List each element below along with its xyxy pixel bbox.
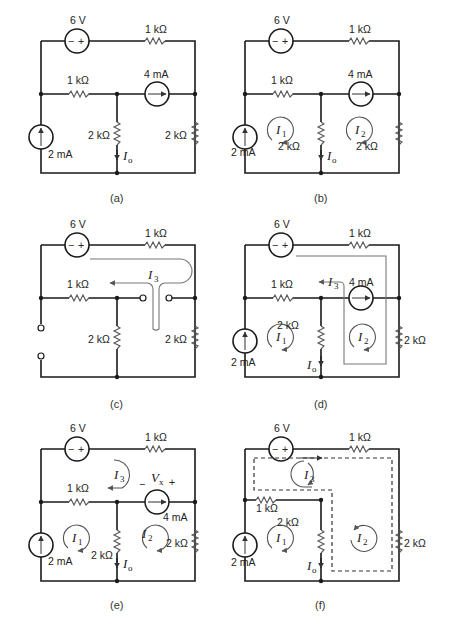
panel-f: − + I 1 I 3 I 2 2 mA 2 kΩ 2 kΩ 6 V 1 kΩ … (231, 422, 426, 611)
svg-text:2 mA: 2 mA (48, 555, 73, 567)
svg-text:I: I (357, 329, 363, 344)
svg-text:+: + (282, 443, 288, 455)
svg-text:6 V: 6 V (70, 218, 86, 230)
svg-text:4 mA: 4 mA (144, 68, 169, 80)
svg-text:+: + (282, 35, 288, 47)
svg-text:I: I (275, 122, 281, 137)
svg-text:I: I (354, 122, 360, 137)
svg-text:2 kΩ: 2 kΩ (277, 516, 299, 528)
caption-f: (f) (315, 599, 325, 611)
resistor-mid (69, 91, 89, 97)
svg-text:2 kΩ: 2 kΩ (277, 319, 299, 331)
svg-text:2 mA: 2 mA (231, 556, 256, 568)
svg-text:−: − (272, 35, 278, 47)
svg-text:1: 1 (282, 336, 287, 346)
panel-e: − + I 1 I 2 I 3 − V x + 4 mA 2 mA 2 kΩ 2… (29, 422, 198, 611)
open-terminal (166, 295, 172, 301)
svg-text:2 kΩ: 2 kΩ (91, 549, 113, 561)
svg-text:6 V: 6 V (274, 218, 290, 230)
svg-text:2 kΩ: 2 kΩ (88, 129, 110, 141)
svg-text:2: 2 (148, 533, 153, 543)
svg-text:2 kΩ: 2 kΩ (278, 140, 300, 152)
caption-c: (c) (110, 398, 123, 410)
supermesh-path-i3 (90, 259, 192, 330)
svg-text:2 kΩ: 2 kΩ (165, 333, 187, 345)
svg-text:o: o (312, 565, 317, 575)
svg-text:o: o (128, 155, 133, 165)
svg-text:I: I (147, 267, 153, 282)
svg-text:2 kΩ: 2 kΩ (88, 333, 110, 345)
supermesh-path-i3 (296, 256, 386, 364)
svg-text:1: 1 (78, 537, 83, 547)
svg-text:2 mA: 2 mA (48, 148, 73, 160)
svg-text:−: − (139, 478, 145, 490)
circuit-figure: − + 6 V 1 kΩ 1 kΩ 4 mA 2 mA 2 kΩ 2 kΩ I … (0, 0, 449, 628)
svg-text:1 kΩ: 1 kΩ (349, 431, 371, 443)
panel-d: − + I 1 I 2 I 3 2 mA 2 kΩ 2 kΩ 6 V 1 kΩ … (231, 218, 426, 410)
svg-text:I: I (71, 530, 77, 545)
svg-text:2 kΩ: 2 kΩ (404, 334, 426, 346)
svg-text:2 kΩ: 2 kΩ (356, 140, 378, 152)
panel-a: − + 6 V 1 kΩ 1 kΩ 4 mA 2 mA 2 kΩ 2 kΩ I … (29, 14, 198, 204)
caption-b: (b) (314, 192, 327, 204)
svg-text:1 kΩ: 1 kΩ (67, 74, 89, 86)
svg-text:3: 3 (120, 474, 125, 484)
svg-text:4 mA: 4 mA (163, 511, 188, 523)
svg-text:1 kΩ: 1 kΩ (271, 278, 293, 290)
svg-text:I: I (327, 274, 333, 289)
loop-i3 (108, 460, 130, 488)
svg-text:o: o (332, 155, 337, 165)
svg-text:I: I (275, 329, 281, 344)
svg-text:1 kΩ: 1 kΩ (67, 482, 89, 494)
svg-text:I: I (141, 526, 147, 541)
svg-text:I: I (275, 530, 281, 545)
caption-a: (a) (110, 192, 123, 204)
svg-text:2: 2 (361, 129, 366, 139)
resistor-center (114, 122, 120, 145)
svg-text:4 mA: 4 mA (348, 68, 373, 80)
svg-text:+: + (169, 476, 175, 488)
supermesh-dashed-path (254, 458, 392, 571)
open-terminal (140, 295, 146, 301)
svg-text:2: 2 (364, 336, 369, 346)
resistor-top (145, 38, 165, 44)
plus-sign: + (78, 35, 84, 47)
svg-text:+: + (282, 239, 288, 251)
svg-text:1: 1 (282, 129, 287, 139)
svg-text:+: + (78, 443, 84, 455)
svg-text:1 kΩ: 1 kΩ (256, 502, 278, 514)
svg-text:I: I (356, 530, 362, 545)
svg-text:−: − (272, 239, 278, 251)
svg-text:1: 1 (282, 537, 287, 547)
svg-text:I: I (303, 467, 309, 482)
svg-text:1 kΩ: 1 kΩ (145, 431, 167, 443)
svg-text:o: o (312, 364, 317, 374)
svg-text:6 V: 6 V (70, 422, 86, 434)
open-terminal (38, 353, 44, 359)
svg-text:o: o (128, 563, 133, 573)
svg-text:−: − (68, 443, 74, 455)
svg-text:6 V: 6 V (70, 14, 86, 26)
svg-text:3: 3 (310, 474, 315, 484)
svg-text:1 kΩ: 1 kΩ (145, 227, 167, 239)
svg-text:2 mA: 2 mA (231, 146, 256, 158)
svg-text:+: + (78, 239, 84, 251)
svg-text:2 kΩ: 2 kΩ (165, 129, 187, 141)
svg-text:1 kΩ: 1 kΩ (67, 278, 89, 290)
svg-text:2 mA: 2 mA (231, 356, 256, 368)
svg-text:3: 3 (154, 274, 159, 284)
svg-text:2 kΩ: 2 kΩ (166, 537, 188, 549)
panel-b: − + I 1 I 2 2 mA 2 kΩ 2 kΩ 6 V 1 kΩ 1 kΩ… (231, 14, 402, 204)
svg-text:6 V: 6 V (274, 422, 290, 434)
svg-text:2: 2 (363, 537, 368, 547)
svg-text:4 mA: 4 mA (349, 276, 374, 288)
svg-text:1 kΩ: 1 kΩ (145, 23, 167, 35)
svg-text:1 kΩ: 1 kΩ (349, 227, 371, 239)
svg-text:I: I (113, 467, 119, 482)
svg-text:−: − (68, 239, 74, 251)
panel-c: − + I 3 6 V 1 kΩ 1 kΩ 2 kΩ 2 kΩ (c) (38, 218, 198, 410)
svg-text:1 kΩ: 1 kΩ (271, 74, 293, 86)
minus-sign: − (68, 35, 74, 47)
svg-text:6 V: 6 V (274, 14, 290, 26)
open-terminal (38, 325, 44, 331)
